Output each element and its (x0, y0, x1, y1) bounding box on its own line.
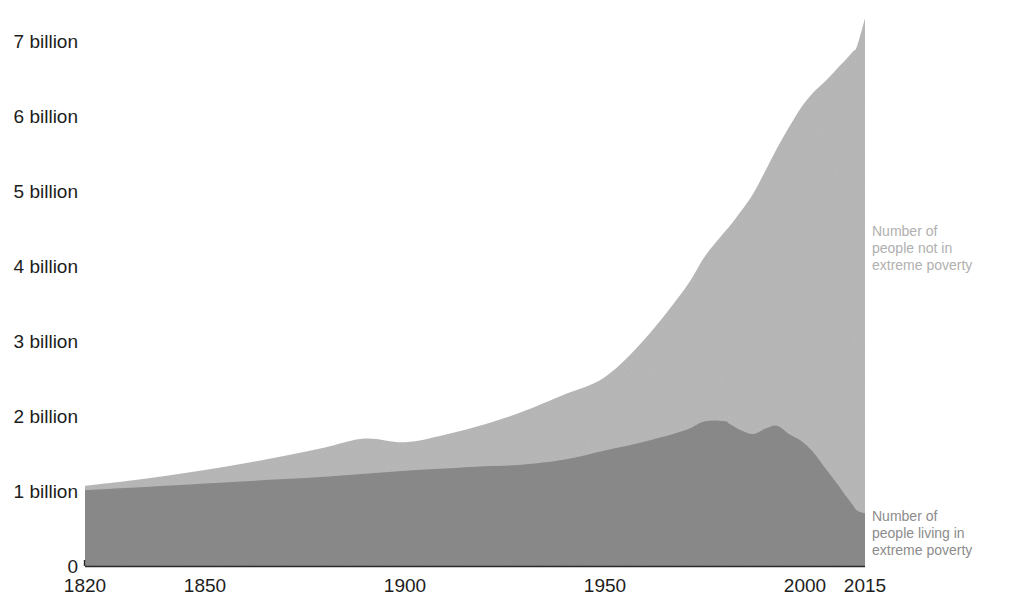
y-axis-tick-label: 5 billion (14, 181, 78, 202)
y-axis-tick-label: 7 billion (14, 31, 78, 52)
legend-living-in-extreme-poverty: Number of people living in extreme pover… (872, 508, 972, 558)
legend-upper-line2: people not in (872, 240, 952, 256)
legend-upper-line1: Number of (872, 223, 937, 239)
y-axis-tick-label: 2 billion (14, 406, 78, 427)
y-axis-tick-label: 4 billion (14, 256, 78, 277)
x-axis-tick-label: 2000 (784, 575, 826, 596)
chart-canvas: 01 billion2 billion3 billion4 billion5 b… (0, 0, 1014, 614)
y-axis-tick-label: 1 billion (14, 481, 78, 502)
y-axis-tick-label: 3 billion (14, 331, 78, 352)
x-axis-tick-label: 1850 (184, 575, 226, 596)
x-axis-tick-label: 2015 (844, 575, 886, 596)
x-axis: 182018501900195020002015 (64, 575, 886, 596)
x-axis-tick-label: 1900 (384, 575, 426, 596)
legend-lower-line3: extreme poverty (872, 542, 972, 558)
y-axis: 01 billion2 billion3 billion4 billion5 b… (14, 31, 78, 577)
area-series-group (85, 19, 865, 567)
y-axis-tick-label: 0 (67, 556, 78, 577)
legend-lower-line2: people living in (872, 525, 965, 541)
legend-lower-line1: Number of (872, 508, 937, 524)
x-axis-tick-label: 1950 (584, 575, 626, 596)
legend-upper-line3: extreme poverty (872, 257, 972, 273)
legend-not-in-extreme-poverty: Number of people not in extreme poverty (872, 223, 972, 273)
x-axis-tick-label: 1820 (64, 575, 106, 596)
poverty-area-chart: 01 billion2 billion3 billion4 billion5 b… (0, 0, 1014, 614)
y-axis-tick-label: 6 billion (14, 106, 78, 127)
